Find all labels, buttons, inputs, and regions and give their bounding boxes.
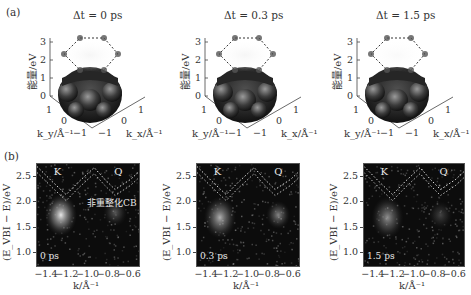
x-tick: −1.0: [76, 268, 99, 279]
kx-tick: 1: [445, 104, 451, 115]
surface-panel-0: Δt = 0 ps 能量/eV: [0, 0, 158, 148]
ky-axis-label: k_y/Å⁻¹: [344, 128, 381, 139]
x-tick: −0.6: [278, 268, 301, 279]
delay-label: 1.5 ps: [367, 251, 395, 261]
ky-tick: −1: [73, 127, 87, 138]
ky-tick: 0: [368, 115, 374, 126]
x-axis-label: k/Å⁻¹: [233, 280, 259, 291]
x-tick: −1.4: [34, 268, 57, 279]
kx-tick: 1: [293, 104, 299, 115]
heatmap-plot-area: K Q 0.3 ps: [196, 163, 300, 267]
ky-axis-label: k_y/Å⁻¹: [192, 128, 229, 139]
surface-panel-2: Δt = 1.5 ps 能量/eV: [313, 0, 471, 148]
y-tick: 1.0: [343, 246, 358, 257]
kx-tick: −1: [405, 127, 419, 138]
ky-tick: 0: [61, 115, 67, 126]
kx-tick: 0: [428, 115, 434, 126]
ky-tick: 1: [46, 104, 52, 115]
z-tick: 3: [40, 36, 46, 47]
panel-b-letter: (b): [4, 150, 19, 162]
x-tick: −1.4: [194, 268, 217, 279]
x-tick: −1.2: [215, 268, 238, 279]
x-tick: −0.6: [118, 268, 141, 279]
kx-tick: 1: [138, 104, 144, 115]
x-tick: −1.0: [236, 268, 259, 279]
y-axis-label: (E_VBI − E)/eV: [328, 184, 339, 261]
z-tick: 2: [40, 54, 46, 65]
y-tick: 2.0: [343, 195, 358, 206]
z-tick: 2: [347, 54, 353, 65]
valley-label-k: K: [214, 166, 221, 177]
heatmap-plot-area: K Q 1.5 ps: [363, 163, 465, 267]
z-tick: 0: [40, 90, 46, 101]
y-tick: 1.5: [176, 221, 191, 232]
z-tick: 2: [195, 54, 201, 65]
delay-label: 0 ps: [40, 251, 59, 261]
surface-plot: [313, 0, 471, 148]
z-tick: 3: [195, 36, 201, 47]
kx-axis-label: k_x/Å⁻¹: [126, 128, 163, 139]
x-tick: −0.8: [257, 268, 280, 279]
y-tick: 1.0: [16, 246, 31, 257]
z-tick: 1: [347, 72, 353, 83]
y-tick: 2.5: [16, 170, 31, 181]
ky-axis-label: k_y/Å⁻¹: [37, 128, 74, 139]
delay-label: 0.3 ps: [200, 251, 228, 261]
ky-tick: −1: [228, 127, 242, 138]
z-tick: 1: [40, 72, 46, 83]
z-tick: 3: [347, 36, 353, 47]
ky-tick: −1: [380, 127, 394, 138]
heatmap-plot-area: K Q 非重整化CB 0 ps: [36, 163, 140, 267]
y-tick: 2.0: [176, 195, 191, 206]
surface-panel-1: Δt = 0.3 ps 能量/eV: [161, 0, 319, 148]
y-tick: 2.5: [176, 170, 191, 181]
kx-axis-label: k_x/Å⁻¹: [433, 128, 470, 139]
y-tick: 1.5: [16, 221, 31, 232]
valley-label-k: K: [54, 166, 61, 177]
cb-annotation: 非重整化CB: [87, 196, 137, 209]
valley-label-q: Q: [440, 166, 448, 177]
y-tick: 1.0: [176, 246, 191, 257]
x-axis-label: k/Å⁻¹: [399, 280, 425, 291]
x-tick: −0.8: [97, 268, 120, 279]
kx-tick: 0: [121, 115, 127, 126]
y-tick: 2.5: [343, 170, 358, 181]
valley-label-k: K: [380, 166, 387, 177]
x-axis-label: k/Å⁻¹: [73, 280, 99, 291]
surface-plot: [161, 0, 319, 148]
kx-tick: −1: [98, 127, 112, 138]
y-tick: 2.0: [16, 195, 31, 206]
kx-tick: −1: [253, 127, 267, 138]
surface-plot: [0, 0, 158, 148]
ky-tick: 1: [353, 104, 359, 115]
x-tick: −0.6: [443, 268, 466, 279]
valley-label-q: Q: [274, 166, 282, 177]
kx-tick: 0: [276, 115, 282, 126]
z-tick: 0: [195, 90, 201, 101]
y-axis-label: (E_VBI − E)/eV: [161, 184, 172, 261]
valley-label-q: Q: [114, 166, 122, 177]
z-tick: 1: [195, 72, 201, 83]
y-axis-label: (E_VBI − E)/eV: [1, 184, 12, 261]
ky-tick: 0: [216, 115, 222, 126]
y-tick: 1.5: [343, 221, 358, 232]
z-tick: 0: [347, 90, 353, 101]
x-tick: −1.2: [55, 268, 78, 279]
ky-tick: 1: [201, 104, 207, 115]
